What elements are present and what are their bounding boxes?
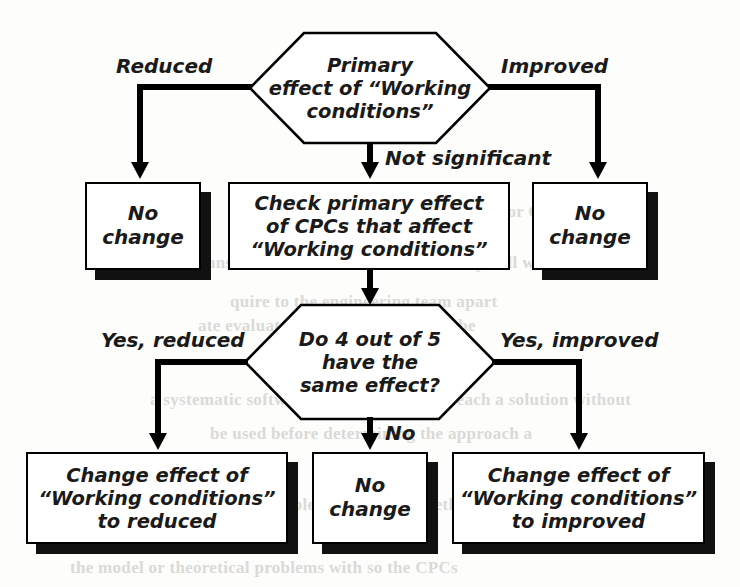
- node-no-change-bottom[interactable]: No change: [312, 452, 428, 544]
- node-top-decision-label: Primary effect of “Working conditions”: [269, 54, 472, 123]
- edge-label-yes-reduced: Yes, reduced: [101, 330, 245, 350]
- edge-label-improved: Improved: [501, 56, 608, 76]
- node-no-change-left[interactable]: No change: [85, 182, 201, 270]
- connector-yes-reduced-horizontal: [155, 359, 248, 365]
- connector-reduced-horizontal: [137, 84, 252, 90]
- node-change-to-reduced[interactable]: Change effect of “Working conditions” to…: [26, 452, 288, 544]
- connector-reduced-vertical: [137, 84, 143, 164]
- connector-yes-improved-horizontal: [492, 359, 582, 365]
- node-change-to-improved-label: Change effect of “Working conditions” to…: [460, 464, 697, 533]
- node-change-to-improved[interactable]: Change effect of “Working conditions” to…: [452, 452, 705, 544]
- arrow-no: [361, 433, 379, 450]
- node-second-decision[interactable]: Do 4 out of 5 have the same effect?: [243, 303, 497, 421]
- edge-label-yes-improved: Yes, improved: [500, 330, 658, 350]
- flowchart-canvas: quire to the engineering team apart ate …: [0, 0, 740, 587]
- edge-label-not-significant: Not significant: [385, 148, 551, 168]
- connector-improved-horizontal: [488, 84, 601, 90]
- arrow-improved: [589, 162, 607, 179]
- connector-improved-vertical: [595, 84, 601, 164]
- background-bleed-line-8: the model or theoretical problems with s…: [70, 558, 458, 578]
- connector-yes-improved-vertical: [576, 359, 582, 435]
- node-top-decision[interactable]: Primary effect of “Working conditions”: [248, 31, 492, 145]
- node-check-cpcs-label: Check primary effect of CPCs that affect…: [250, 192, 487, 261]
- connector-yes-reduced-vertical: [155, 359, 161, 435]
- edge-label-reduced: Reduced: [116, 56, 212, 76]
- node-no-change-left-label: No change: [102, 202, 184, 249]
- node-no-change-bottom-label: No change: [329, 474, 411, 521]
- node-second-decision-label: Do 4 out of 5 have the same effect?: [299, 328, 441, 397]
- node-no-change-right[interactable]: No change: [532, 182, 648, 270]
- node-check-cpcs[interactable]: Check primary effect of CPCs that affect…: [228, 182, 510, 270]
- node-change-to-reduced-label: Change effect of “Working conditions” to…: [38, 464, 275, 533]
- arrow-reduced: [131, 162, 149, 179]
- edge-label-no: No: [385, 423, 415, 443]
- arrow-yes-improved: [570, 433, 588, 450]
- arrow-not-significant: [361, 162, 379, 179]
- node-no-change-right-label: No change: [549, 202, 631, 249]
- arrow-yes-reduced: [149, 433, 167, 450]
